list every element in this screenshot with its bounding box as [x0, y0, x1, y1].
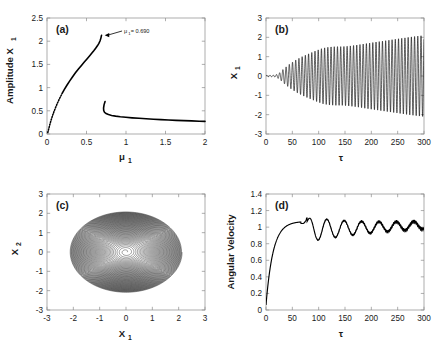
x-axis-title-sub: 1	[128, 334, 132, 341]
y-tick-label: 0.5	[32, 107, 44, 116]
annotation-label: μ1= 0.690	[124, 28, 149, 36]
x-tick-label: 0	[45, 138, 50, 147]
x-tick-label: 2	[203, 138, 208, 147]
x-tick-label: -2	[70, 314, 78, 323]
annotation-value: = 0.690	[131, 28, 150, 34]
y-axis-title-sub: 1	[234, 66, 241, 70]
panel-c-phase-portrait: -3-2-10123-3-2-10123(c)X1X2	[0, 176, 218, 352]
y-axis-title-text: Angular Velocity	[225, 214, 236, 290]
phase-spiral	[70, 212, 182, 292]
x-axis-title: τ	[338, 328, 343, 339]
x-tick-label: 250	[390, 314, 404, 323]
x-axis-title-text: X	[119, 328, 126, 339]
x-tick-label: 50	[287, 138, 297, 147]
plot-frame	[266, 194, 424, 310]
y-tick-label: 3	[257, 14, 262, 23]
x-tick-label: 100	[311, 138, 325, 147]
y-tick-label: 0	[257, 72, 262, 81]
y-tick-label: 1	[38, 84, 43, 93]
y-tick-label: 1.4	[250, 190, 262, 199]
annotation-arrow-line	[108, 31, 122, 35]
y-tick-label: 0	[257, 306, 262, 315]
x-tick-label: 300	[417, 138, 431, 147]
y-tick-label: 0	[38, 248, 43, 257]
y-tick-label: 2	[38, 209, 43, 218]
figure-panel-grid: 00.511.5200.511.522.5μ1= 0.690(a)μ1Ampli…	[0, 0, 437, 352]
y-tick-label: 1	[257, 223, 262, 232]
upper-branch-solid	[62, 35, 102, 93]
panel-d-svg: 05010015020025030000.20.40.60.811.21.4(d…	[219, 176, 437, 352]
x-tick-label: 1	[150, 314, 155, 323]
y-tick-label: 0	[38, 130, 43, 139]
x-tick-label: 200	[364, 314, 378, 323]
y-tick-label: -3	[254, 130, 262, 139]
x-tick-label: 200	[364, 138, 378, 147]
x-tick-label: 0.5	[81, 138, 93, 147]
y-tick-label: 1.5	[32, 60, 44, 69]
y-tick-label: -3	[36, 306, 44, 315]
y-axis-title: X1	[228, 66, 241, 79]
velocity-band	[266, 217, 424, 305]
panel-d-angular-velocity: 05010015020025030000.20.40.60.811.21.4(d…	[219, 176, 437, 352]
spiral-orbit	[70, 212, 182, 292]
y-tick-label: 1.2	[250, 207, 262, 216]
x-tick-label: 3	[203, 314, 208, 323]
y-tick-label: 2.5	[32, 14, 44, 23]
y-tick-label: 2	[257, 33, 262, 42]
y-tick-label: -2	[36, 287, 44, 296]
x-tick-label: 1.5	[160, 138, 172, 147]
x-tick-label: 1	[124, 138, 129, 147]
x-tick-label: 0	[263, 314, 268, 323]
x-tick-label: 150	[338, 138, 352, 147]
x-tick-label: 0	[124, 314, 129, 323]
x-axis-title: τ	[338, 152, 343, 163]
y-tick-label: 0.6	[250, 256, 262, 265]
annotation-arrow-head	[105, 33, 110, 37]
panel-b-svg: 050100150200250300-3-2-10123(b)τX1	[219, 0, 437, 176]
x-tick-label: 50	[287, 314, 297, 323]
x-tick-label: 0	[263, 138, 268, 147]
x-tick-label: -1	[96, 314, 104, 323]
y-tick-label: -1	[36, 267, 44, 276]
panel-a-svg: 00.511.5200.511.522.5μ1= 0.690(a)μ1Ampli…	[0, 0, 218, 176]
y-tick-label: 0.8	[250, 240, 262, 249]
y-tick-label: -1	[254, 91, 262, 100]
panel-tag: (b)	[275, 23, 288, 35]
y-tick-label: 0.4	[250, 273, 262, 282]
panel-tag: (d)	[275, 199, 288, 211]
y-tick-label: 2	[38, 37, 43, 46]
y-axis-title-text: X	[228, 72, 239, 79]
annotation-symbol: μ	[124, 28, 127, 34]
y-tick-label: 1	[38, 229, 43, 238]
panel-tag: (c)	[56, 199, 69, 211]
y-tick-label: -2	[254, 111, 262, 120]
y-axis-title-sub: 1	[10, 37, 17, 41]
panel-b-time-series: 050100150200250300-3-2-10123(b)τX1	[219, 0, 437, 176]
x-axis-title-sub: 1	[128, 157, 132, 164]
oscillation-trace	[266, 36, 424, 117]
x1-signal	[266, 36, 424, 117]
x-tick-label: 100	[311, 314, 325, 323]
x-axis-title: μ1	[119, 151, 132, 164]
lower-branch	[104, 102, 205, 122]
panel-c-svg: -3-2-10123-3-2-10123(c)X1X2	[0, 176, 218, 352]
x-tick-label: 300	[417, 314, 431, 323]
x-axis-title: X1	[119, 328, 132, 341]
x-axis-title-text: μ	[119, 151, 125, 162]
upper-branch-dotted	[48, 94, 62, 133]
y-tick-label: 0.2	[250, 289, 262, 298]
x-tick-label: 2	[176, 314, 181, 323]
y-axis-title-sub: 2	[15, 242, 22, 246]
y-tick-label: 3	[38, 190, 43, 199]
velocity-curve	[266, 217, 424, 305]
y-axis-title-text: Amplitude X	[4, 47, 15, 104]
y-tick-label: 1	[257, 53, 262, 62]
y-axis-title: Amplitude X1	[4, 37, 17, 104]
panel-a-bifurcation-diagram: 00.511.5200.511.522.5μ1= 0.690(a)μ1Ampli…	[0, 0, 218, 176]
x-tick-label: 150	[338, 314, 352, 323]
y-axis-title: Angular Velocity	[225, 214, 236, 290]
x-tick-label: -3	[43, 314, 51, 323]
y-axis-title: X2	[9, 242, 22, 255]
x-tick-label: 250	[390, 138, 404, 147]
y-axis-title-text: X	[9, 248, 20, 255]
